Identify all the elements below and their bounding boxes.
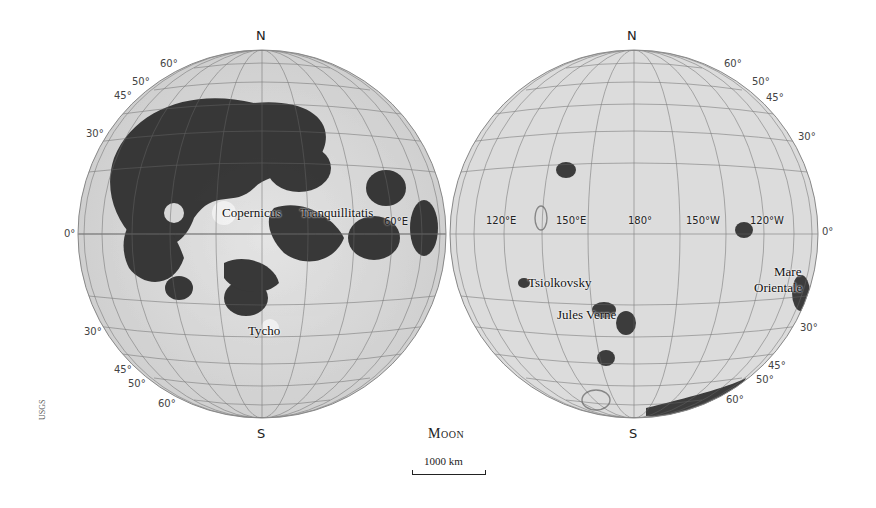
feature-tycho: Tycho	[248, 323, 280, 339]
map-title: Moon	[428, 426, 464, 442]
far-lon-120e: 120°E	[486, 215, 516, 226]
scale-bar-label: 1000 km	[424, 455, 463, 467]
far-lat-45n: 45°	[766, 92, 784, 103]
near-lat-45n: 45°	[114, 90, 132, 101]
near-lat-50s: 50°	[128, 378, 146, 389]
near-lat-45s: 45°	[114, 364, 132, 375]
near-lat-60n: 60°	[160, 58, 178, 69]
feature-mare-orientale-line2: Orientale	[754, 280, 802, 296]
far-lat-60s: 60°	[726, 394, 744, 405]
near-north-label: N	[256, 28, 266, 43]
far-lat-50n: 50°	[752, 76, 770, 87]
near-equator-label: 0°	[64, 228, 75, 239]
scale-bar	[412, 470, 486, 475]
feature-tranquillitatis: Tranquillitatis	[300, 205, 373, 221]
feature-jules-verne: Jules Verne	[557, 307, 616, 323]
feature-copernicus: Copernicus	[222, 205, 281, 221]
feature-tsiolkovsky: Tsiolkovsky	[528, 275, 591, 291]
near-lon-60e: 60°E	[384, 216, 408, 227]
near-lat-50n: 50°	[132, 76, 150, 87]
far-lat-50s: 50°	[756, 374, 774, 385]
near-lat-30n: 30°	[86, 128, 104, 139]
far-lat-30s: 30°	[800, 322, 818, 333]
far-equator-label: 0°	[822, 226, 833, 237]
far-side-hemisphere	[446, 48, 826, 472]
far-lat-30n: 30°	[798, 131, 816, 142]
far-lon-180: 180°	[628, 215, 652, 226]
near-lat-60s: 60°	[158, 398, 176, 409]
usgs-credit: USGS	[38, 400, 47, 420]
near-lat-30s: 30°	[84, 326, 102, 337]
far-lon-150e: 150°E	[556, 215, 586, 226]
feature-mare-orientale-line1: Mare	[774, 264, 801, 280]
near-south-label: S	[257, 426, 265, 441]
far-lat-60n: 60°	[724, 58, 742, 69]
far-lon-150w: 150°W	[686, 215, 720, 226]
far-lon-120w: 120°W	[750, 215, 784, 226]
near-side-hemisphere	[74, 48, 454, 472]
far-north-label: N	[627, 28, 637, 43]
far-south-label: S	[629, 426, 637, 441]
far-lat-45s: 45°	[768, 360, 786, 371]
